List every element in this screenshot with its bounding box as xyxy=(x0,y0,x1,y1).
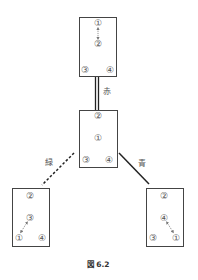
box-top: ① ② ③ ④ xyxy=(80,18,117,77)
middle-node-4: ④ xyxy=(105,155,113,165)
edge-top-middle: 赤 xyxy=(96,77,112,110)
right-node-1: ① xyxy=(172,233,180,243)
box-left: ② ③ ① ④ xyxy=(13,189,50,247)
left-node-4: ④ xyxy=(38,233,46,243)
middle-node-2: ② xyxy=(94,111,102,121)
diagram-canvas: ① ② ③ ④ 赤 ② ① ③ ④ 緑 青 ② ③ ① ④ ② xyxy=(0,0,198,280)
top-node-3: ③ xyxy=(81,65,89,75)
right-node-4: ④ xyxy=(160,213,168,223)
left-node-2: ② xyxy=(26,191,34,201)
top-node-2: ② xyxy=(94,39,102,49)
edge-middle-right: 青 xyxy=(119,153,149,184)
figure-caption: 図 6.2 xyxy=(87,260,110,269)
right-node-2: ② xyxy=(160,191,168,201)
top-node-4: ④ xyxy=(106,65,114,75)
edge-label-red: 赤 xyxy=(103,87,111,96)
top-node-1: ① xyxy=(94,18,102,28)
edge-middle-left: 緑 xyxy=(42,153,74,185)
right-node-3: ③ xyxy=(149,233,157,243)
left-node-3: ③ xyxy=(26,213,34,223)
left-node-1: ① xyxy=(15,233,23,243)
box-right: ② ④ ③ ① xyxy=(147,189,184,247)
edge-label-green: 緑 xyxy=(45,157,53,167)
middle-node-3: ③ xyxy=(82,155,90,165)
box-middle: ② ① ③ ④ xyxy=(80,111,118,168)
middle-node-1: ① xyxy=(94,133,102,143)
edge-label-blue: 青 xyxy=(138,158,146,168)
